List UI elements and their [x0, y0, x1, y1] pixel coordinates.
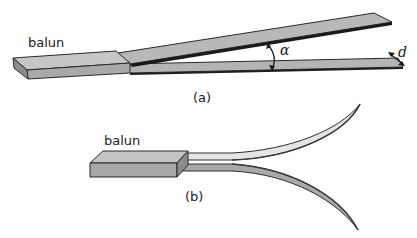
panel-b-caption: (b) — [185, 189, 203, 204]
balun-label-a: balun — [28, 35, 64, 50]
balun-label-b: balun — [104, 133, 140, 148]
panel-b: balun (b) — [90, 104, 360, 230]
balun-block-a — [13, 51, 130, 79]
panel-a: α d balun (a) — [13, 13, 407, 105]
angle-alpha-label: α — [280, 42, 290, 58]
panel-a-caption: (a) — [193, 90, 211, 105]
lower-curved-strip-b — [180, 164, 358, 230]
width-d-label: d — [398, 44, 407, 60]
upper-curved-strip-b — [180, 104, 360, 160]
balun-strip-diagram: α d balun (a) balun (b) — [0, 0, 417, 238]
balun-block-b — [90, 151, 188, 177]
